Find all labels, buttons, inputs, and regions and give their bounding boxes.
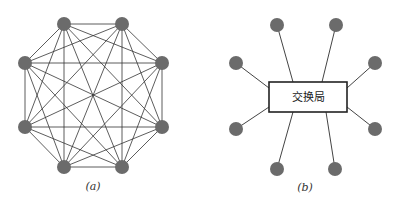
mesh-node: [115, 17, 129, 31]
mesh-edge: [25, 127, 64, 167]
mesh-node: [155, 56, 169, 70]
star-node: [229, 122, 243, 136]
mesh-edge: [64, 63, 162, 167]
mesh-edge: [25, 24, 64, 63]
mesh-edge: [122, 127, 162, 167]
exchange-label: 交换局: [292, 90, 325, 104]
star-node: [270, 162, 284, 176]
mesh-edge: [25, 24, 122, 63]
caption-b: (b): [297, 181, 313, 194]
mesh-edge: [122, 24, 162, 63]
mesh-edge: [25, 127, 122, 167]
mesh-node: [18, 56, 32, 70]
mesh-node: [57, 160, 71, 174]
mesh-edge: [25, 24, 122, 127]
mesh-node: [115, 160, 129, 174]
mesh-node: [155, 120, 169, 134]
mesh-edge: [64, 127, 162, 167]
star-node: [229, 56, 243, 70]
mesh-edge: [64, 24, 162, 127]
mesh-edges: [25, 24, 162, 167]
star-edge: [277, 112, 293, 169]
mesh-edge: [25, 63, 122, 167]
mesh-node: [18, 120, 32, 134]
star-node: [368, 56, 382, 70]
star-node: [329, 18, 343, 32]
star-node: [270, 18, 284, 32]
caption-a: (a): [85, 180, 100, 193]
star-edge: [326, 112, 335, 169]
mesh-node: [57, 17, 71, 31]
star-node: [328, 162, 342, 176]
network-diagrams: (a) 交换局 (b): [0, 0, 395, 204]
star-node: [368, 122, 382, 136]
star-edge: [322, 25, 336, 82]
star-edge: [277, 25, 293, 82]
mesh-edge: [64, 24, 162, 63]
mesh-nodes: [18, 17, 169, 174]
